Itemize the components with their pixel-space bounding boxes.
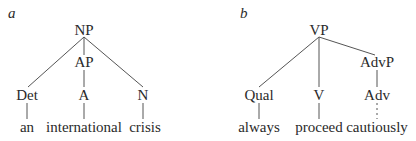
node-vp: VP — [309, 23, 328, 38]
node-np: NP — [74, 23, 93, 38]
word-always: always — [238, 120, 280, 135]
word-proceed: proceed — [295, 120, 342, 135]
node-ap: AP — [74, 55, 93, 70]
node-advp: AdvP — [360, 55, 394, 70]
node-det: Det — [16, 88, 38, 103]
word-international: international — [46, 120, 122, 135]
node-a: A — [79, 88, 90, 103]
panel-b-label: b — [240, 6, 248, 21]
edge-vp-qual — [259, 37, 319, 87]
word-an: an — [20, 120, 34, 135]
node-v: V — [314, 88, 325, 103]
word-crisis: crisis — [129, 120, 161, 135]
node-adv: Adv — [364, 88, 390, 103]
node-qual: Qual — [244, 88, 273, 103]
node-n: N — [138, 88, 149, 103]
edge-vp-advp — [319, 37, 375, 55]
panel-a-label: a — [8, 6, 16, 21]
word-cautiously: cautiously — [346, 120, 408, 135]
